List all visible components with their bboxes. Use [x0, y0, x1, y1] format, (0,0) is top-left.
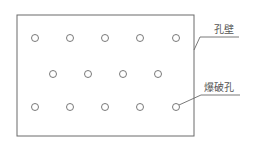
blast-hole-icon — [120, 71, 127, 78]
blast-hole-icon — [173, 104, 180, 111]
blast-holes-row-3 — [32, 104, 180, 111]
blast-holes-row-2 — [50, 71, 162, 78]
hole-wall-leader-line — [194, 37, 239, 50]
blast-hole-icon — [137, 35, 144, 42]
blast-hole-label: 爆破孔 — [204, 81, 234, 93]
blast-hole-icon — [67, 104, 74, 111]
blast-hole-icon — [173, 35, 180, 42]
blast-hole-layout-diagram: 孔壁 爆破孔 — [0, 0, 253, 145]
blast-hole-icon — [102, 35, 109, 42]
blast-hole-icon — [85, 71, 92, 78]
blast-hole-icon — [32, 104, 39, 111]
blast-hole-icon — [67, 35, 74, 42]
blast-hole-icon — [137, 104, 144, 111]
hole-wall-outline — [17, 15, 194, 136]
blast-hole-icon — [50, 71, 57, 78]
blast-holes-row-1 — [32, 35, 180, 42]
blast-hole-icon — [32, 35, 39, 42]
blast-hole-icon — [155, 71, 162, 78]
blast-hole-leader-line — [179, 95, 240, 105]
hole-wall-label: 孔壁 — [214, 23, 234, 35]
blast-hole-icon — [102, 104, 109, 111]
